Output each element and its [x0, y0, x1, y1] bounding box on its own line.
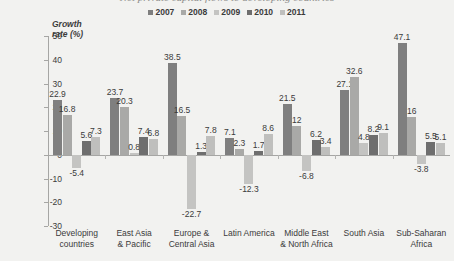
- y-axis-tick: [44, 36, 48, 37]
- bar-value-label: 22.9: [41, 89, 75, 99]
- x-axis-category-4: Latin America: [220, 228, 277, 239]
- legend-swatch-icon: [214, 10, 219, 15]
- bar-2010[interactable]: [254, 151, 263, 155]
- bar-groups: 22.916.8-5.45.67.323.720.30.87.46.838.51…: [48, 36, 450, 226]
- bar-group: 47.116-3.85.55.1: [393, 36, 450, 226]
- legend-item-2007[interactable]: 2007: [148, 7, 174, 17]
- bar-value-label: 47.1: [385, 32, 419, 42]
- bar-value-label: -3.8: [404, 164, 438, 174]
- legend-item-2011[interactable]: 2011: [280, 7, 305, 17]
- bar-2011[interactable]: [379, 133, 388, 155]
- x-axis-category-3: Europe & Central Asia: [163, 228, 220, 249]
- bar-group: 23.720.30.87.46.8: [105, 36, 162, 226]
- x-axis-group-tick: [163, 155, 164, 159]
- bar-2008[interactable]: [350, 77, 359, 154]
- legend-swatch-icon: [280, 10, 285, 15]
- bar-group: 38.516.5-22.71.37.8: [163, 36, 220, 226]
- bar-2009[interactable]: [244, 155, 253, 184]
- x-axis-group-tick: [278, 155, 279, 159]
- bar-2011[interactable]: [149, 139, 158, 155]
- bar-2009[interactable]: [302, 155, 311, 171]
- bar-value-label: 5.1: [423, 132, 454, 142]
- plot-area: 50403020100-10-20-30 22.916.8-5.45.67.32…: [48, 36, 450, 226]
- bar-2009[interactable]: [359, 143, 368, 154]
- x-axis-category-7: Sub-Saharan Africa: [393, 228, 450, 249]
- bar-2010[interactable]: [426, 142, 435, 155]
- y-axis-tick: [44, 202, 48, 203]
- bar-2010[interactable]: [82, 141, 91, 154]
- bar-2011[interactable]: [91, 137, 100, 154]
- x-axis-category-1: Developing countries: [48, 228, 105, 249]
- bar-value-label: 16: [395, 106, 429, 116]
- x-axis-category-5: Middle East & North Africa: [278, 228, 335, 249]
- bar-value-label: -6.8: [289, 171, 323, 181]
- bar-2011[interactable]: [206, 136, 215, 155]
- bar-2011[interactable]: [264, 134, 273, 154]
- bar-group: 21.512-6.86.23.4: [278, 36, 335, 226]
- bar-2007[interactable]: [340, 90, 349, 154]
- legend-label: 2009: [221, 7, 240, 17]
- bar-2009[interactable]: [130, 153, 139, 155]
- legend-label: 2011: [287, 7, 305, 17]
- legend-swatch-icon: [148, 10, 153, 15]
- legend-item-2010[interactable]: 2010: [247, 7, 273, 17]
- legend-item-2008[interactable]: 2008: [181, 7, 207, 17]
- bar-value-label: 32.6: [337, 66, 371, 76]
- y-axis-tick: [44, 226, 48, 227]
- bar-2011[interactable]: [321, 147, 330, 155]
- bar-2010[interactable]: [369, 135, 378, 154]
- bar-group: 22.916.8-5.45.67.3: [48, 36, 105, 226]
- bar-2008[interactable]: [235, 149, 244, 154]
- x-axis-category-6: South Asia: [335, 228, 392, 239]
- x-axis-category-labels: Developing countriesEast Asia & PacificE…: [48, 228, 450, 258]
- bar-value-label: 21.5: [270, 93, 304, 103]
- bar-value-label: 20.3: [108, 96, 142, 106]
- bar-2009[interactable]: [187, 155, 196, 209]
- bar-value-label: 16.5: [165, 105, 199, 115]
- bar-2007[interactable]: [398, 43, 407, 155]
- bar-value-label: 7.1: [213, 127, 247, 137]
- legend-item-2009[interactable]: 2009: [214, 7, 240, 17]
- legend-label: 2008: [188, 7, 207, 17]
- y-axis-tick: [44, 131, 48, 132]
- x-axis-group-tick: [393, 155, 394, 159]
- bar-value-label: 12: [280, 115, 314, 125]
- bar-value-label: -5.4: [60, 168, 94, 178]
- x-axis-group-tick: [335, 155, 336, 159]
- y-axis-tick: [44, 179, 48, 180]
- bar-value-label: 38.5: [155, 52, 189, 62]
- bar-value-label: 16.8: [50, 104, 84, 114]
- bar-group: 27.132.64.88.29.1: [335, 36, 392, 226]
- bar-2010[interactable]: [197, 152, 206, 155]
- chart-legend: 20072008200920102011: [0, 7, 454, 17]
- bar-2007[interactable]: [283, 104, 292, 155]
- y-axis-tick: [44, 60, 48, 61]
- chart-title-remnant: Net private capital flows to developing …: [0, 0, 454, 3]
- bar-2009[interactable]: [72, 155, 81, 168]
- y-axis-tick: [44, 107, 48, 108]
- bar-chart: Net private capital flows to developing …: [0, 0, 454, 261]
- x-axis-group-tick: [105, 155, 106, 159]
- x-axis-category-2: East Asia & Pacific: [105, 228, 162, 249]
- bar-value-label: -12.3: [232, 184, 266, 194]
- bar-value-label: -22.7: [175, 209, 209, 219]
- y-axis-tick: [44, 155, 48, 156]
- legend-label: 2010: [254, 7, 273, 17]
- bar-2011[interactable]: [436, 143, 445, 155]
- legend-label: 2007: [155, 7, 174, 17]
- bar-2010[interactable]: [139, 137, 148, 155]
- x-axis-group-tick: [220, 155, 221, 159]
- bar-2009[interactable]: [417, 155, 426, 164]
- y-axis-tick: [44, 84, 48, 85]
- legend-swatch-icon: [181, 10, 186, 15]
- bar-group: 7.12.3-12.31.78.6: [220, 36, 277, 226]
- legend-swatch-icon: [247, 10, 252, 15]
